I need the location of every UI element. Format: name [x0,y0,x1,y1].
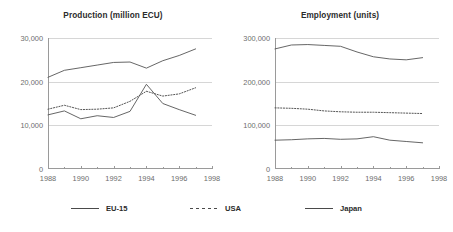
x-axis-tick-label: 1996 [398,174,414,183]
y-axis-tick-label: 100,000 [243,121,270,130]
series-line-usa [275,108,423,114]
chart-title-employment: Employment (units) [227,11,453,20]
y-axis-tick-label: 0 [39,165,43,174]
legend-item-japan: Japan [305,204,362,213]
x-axis-tick-label: 1988 [267,174,283,183]
y-axis-tick-label: 200,000 [243,77,270,86]
legend-label-japan: Japan [340,204,362,213]
legend-line-solid-icon [305,205,333,212]
y-axis-tick-label: 0 [266,165,270,174]
series-layer [48,38,212,169]
chart-legend: EU-15 USA Japan [0,196,453,226]
legend-label-usa: USA [225,204,241,213]
x-axis-tick-label: 1990 [73,174,89,183]
x-axis-tick-label: 1996 [171,174,187,183]
figure-two-line-charts: Production (million ECU) 010,00020,00030… [0,0,453,232]
legend-label-eu15: EU-15 [106,204,128,213]
plot-area-production: 010,00020,00030,000198819901992199419961… [48,38,212,169]
y-axis-tick-label: 20,000 [20,77,43,86]
x-axis-tick-label: 1994 [365,174,381,183]
series-line-usa [48,88,196,110]
x-axis-tick-mark [439,166,440,169]
x-axis-tick-label: 1992 [105,174,121,183]
x-axis-tick-label: 1998 [204,174,220,183]
series-line-eu-15 [48,49,196,77]
legend-item-usa: USA [190,204,241,213]
legend-item-eu15: EU-15 [71,204,128,213]
x-axis-tick-mark [212,166,213,169]
series-line-japan [48,84,196,118]
chart-panel-production: Production (million ECU) 010,00020,00030… [0,0,226,190]
legend-line-solid-icon [71,205,99,212]
y-axis-tick-label: 30,000 [20,34,43,43]
x-axis-tick-label: 1992 [332,174,348,183]
legend-line-dashed-icon [190,205,218,212]
x-axis-tick-label: 1990 [300,174,316,183]
x-axis-tick-label: 1994 [138,174,154,183]
series-line-eu-15 [275,45,423,60]
series-line-japan [275,137,423,143]
series-layer [275,38,439,169]
y-axis-tick-label: 300,000 [243,34,270,43]
chart-panel-employment: Employment (units) 0100,000200,000300,00… [227,0,453,190]
chart-title-production: Production (million ECU) [0,11,226,20]
x-axis-tick-label: 1988 [40,174,56,183]
x-axis-tick-label: 1998 [431,174,447,183]
y-axis-tick-label: 10,000 [20,121,43,130]
plot-area-employment: 0100,000200,000300,000198819901992199419… [275,38,439,169]
